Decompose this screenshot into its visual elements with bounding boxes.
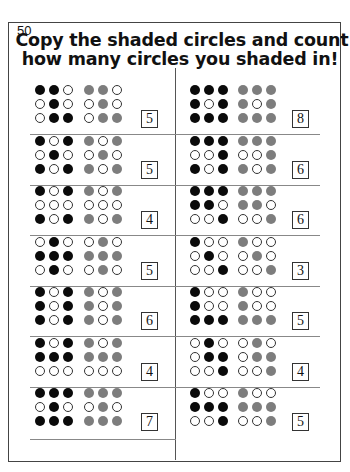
shaded-circle[interactable] — [238, 136, 248, 146]
copy-circle-grid[interactable] — [238, 85, 276, 123]
empty-circle[interactable] — [266, 251, 276, 261]
empty-circle[interactable] — [266, 237, 276, 247]
shaded-circle[interactable] — [98, 85, 108, 95]
empty-circle[interactable] — [84, 99, 94, 109]
shaded-circle[interactable] — [238, 200, 248, 210]
empty-circle[interactable] — [112, 200, 122, 210]
copy-circle-grid[interactable] — [84, 388, 122, 426]
empty-circle[interactable] — [238, 214, 248, 224]
shaded-circle[interactable] — [84, 287, 94, 297]
shaded-circle[interactable] — [98, 402, 108, 412]
shaded-circle[interactable] — [112, 338, 122, 348]
shaded-circle[interactable] — [238, 301, 248, 311]
shaded-circle[interactable] — [112, 214, 122, 224]
empty-circle[interactable] — [238, 251, 248, 261]
shaded-circle[interactable] — [84, 214, 94, 224]
empty-circle[interactable] — [98, 186, 108, 196]
copy-circle-grid[interactable] — [84, 136, 122, 174]
answer-box[interactable]: 4 — [292, 363, 309, 381]
shaded-circle[interactable] — [112, 186, 122, 196]
shaded-circle[interactable] — [252, 352, 262, 362]
copy-circle-grid[interactable] — [238, 388, 276, 426]
shaded-circle[interactable] — [266, 85, 276, 95]
shaded-circle[interactable] — [252, 251, 262, 261]
empty-circle[interactable] — [84, 265, 94, 275]
empty-circle[interactable] — [238, 416, 248, 426]
shaded-circle[interactable] — [252, 186, 262, 196]
empty-circle[interactable] — [112, 150, 122, 160]
shaded-circle[interactable] — [98, 99, 108, 109]
copy-circle-grid[interactable] — [84, 85, 122, 123]
empty-circle[interactable] — [98, 338, 108, 348]
answer-box[interactable]: 7 — [141, 413, 158, 431]
shaded-circle[interactable] — [266, 136, 276, 146]
shaded-circle[interactable] — [84, 136, 94, 146]
shaded-circle[interactable] — [84, 352, 94, 362]
shaded-circle[interactable] — [266, 416, 276, 426]
shaded-circle[interactable] — [84, 164, 94, 174]
shaded-circle[interactable] — [112, 301, 122, 311]
empty-circle[interactable] — [84, 366, 94, 376]
empty-circle[interactable] — [112, 265, 122, 275]
shaded-circle[interactable] — [266, 315, 276, 325]
answer-box[interactable]: 3 — [292, 262, 309, 280]
empty-circle[interactable] — [98, 315, 108, 325]
shaded-circle[interactable] — [98, 113, 108, 123]
empty-circle[interactable] — [252, 366, 262, 376]
shaded-circle[interactable] — [252, 402, 262, 412]
copy-circle-grid[interactable] — [84, 186, 122, 224]
empty-circle[interactable] — [112, 402, 122, 412]
shaded-circle[interactable] — [98, 150, 108, 160]
shaded-circle[interactable] — [252, 113, 262, 123]
shaded-circle[interactable] — [84, 186, 94, 196]
shaded-circle[interactable] — [98, 388, 108, 398]
empty-circle[interactable] — [238, 366, 248, 376]
empty-circle[interactable] — [252, 287, 262, 297]
answer-box[interactable]: 5 — [292, 312, 309, 330]
empty-circle[interactable] — [98, 287, 108, 297]
shaded-circle[interactable] — [252, 315, 262, 325]
shaded-circle[interactable] — [84, 388, 94, 398]
empty-circle[interactable] — [84, 237, 94, 247]
shaded-circle[interactable] — [112, 315, 122, 325]
shaded-circle[interactable] — [238, 287, 248, 297]
shaded-circle[interactable] — [98, 352, 108, 362]
empty-circle[interactable] — [238, 265, 248, 275]
shaded-circle[interactable] — [266, 265, 276, 275]
empty-circle[interactable] — [112, 237, 122, 247]
shaded-circle[interactable] — [112, 113, 122, 123]
empty-circle[interactable] — [266, 388, 276, 398]
shaded-circle[interactable] — [238, 85, 248, 95]
shaded-circle[interactable] — [252, 85, 262, 95]
empty-circle[interactable] — [98, 200, 108, 210]
shaded-circle[interactable] — [252, 136, 262, 146]
empty-circle[interactable] — [98, 136, 108, 146]
shaded-circle[interactable] — [112, 416, 122, 426]
shaded-circle[interactable] — [112, 352, 122, 362]
answer-box[interactable]: 6 — [141, 312, 158, 330]
empty-circle[interactable] — [112, 99, 122, 109]
answer-box[interactable]: 4 — [141, 211, 158, 229]
shaded-circle[interactable] — [84, 301, 94, 311]
answer-box[interactable]: 5 — [141, 161, 158, 179]
copy-circle-grid[interactable] — [238, 287, 276, 325]
shaded-circle[interactable] — [252, 200, 262, 210]
shaded-circle[interactable] — [266, 150, 276, 160]
shaded-circle[interactable] — [266, 366, 276, 376]
empty-circle[interactable] — [84, 402, 94, 412]
empty-circle[interactable] — [238, 352, 248, 362]
empty-circle[interactable] — [84, 200, 94, 210]
answer-box[interactable]: 4 — [141, 363, 158, 381]
shaded-circle[interactable] — [238, 99, 248, 109]
shaded-circle[interactable] — [266, 113, 276, 123]
copy-circle-grid[interactable] — [238, 186, 276, 224]
shaded-circle[interactable] — [266, 164, 276, 174]
shaded-circle[interactable] — [112, 164, 122, 174]
empty-circle[interactable] — [266, 301, 276, 311]
shaded-circle[interactable] — [252, 338, 262, 348]
shaded-circle[interactable] — [84, 338, 94, 348]
shaded-circle[interactable] — [238, 186, 248, 196]
empty-circle[interactable] — [98, 214, 108, 224]
copy-circle-grid[interactable] — [238, 338, 276, 376]
empty-circle[interactable] — [98, 164, 108, 174]
